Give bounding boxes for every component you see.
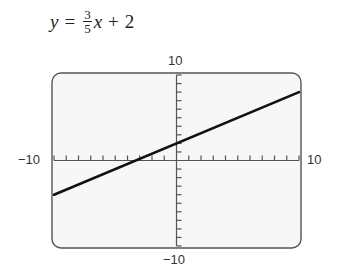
- graph-plot: [0, 0, 340, 274]
